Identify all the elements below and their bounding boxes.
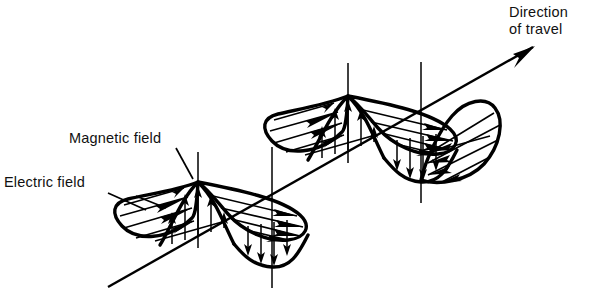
direction-of-travel-label: Directionof travel <box>509 4 568 38</box>
magnetic-field-leader <box>176 148 193 179</box>
electric-field-label: Electric field <box>4 174 85 191</box>
direction-line-2: of travel <box>509 21 562 37</box>
magnetic-lobe-5-outline <box>421 101 500 182</box>
magnetic-lobe-5 <box>421 101 500 183</box>
magnetic-field-label: Magnetic field <box>69 130 161 147</box>
em-wave-diagram <box>0 0 590 298</box>
magnetic-lobe-2 <box>198 182 306 242</box>
em-wave-figure: Directionof travel Magnetic field Electr… <box>0 0 590 298</box>
direction-line-1: Direction <box>509 4 568 20</box>
